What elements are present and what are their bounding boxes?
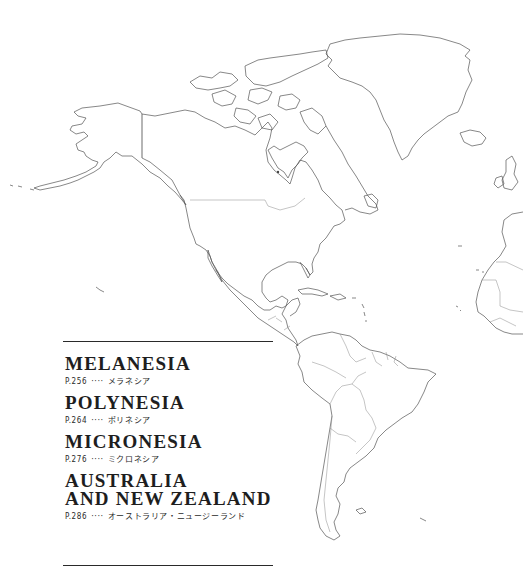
arctic-islands — [190, 50, 328, 134]
newfoundland-outline — [364, 194, 378, 208]
page-number: P.256 — [65, 377, 87, 386]
japanese-name: オーストラリア・ニュージーランド — [108, 512, 246, 521]
bottom-divider — [63, 565, 273, 566]
leader-dots: ···· — [91, 512, 104, 521]
table-of-contents: MELANESIA P.256····メラネシア POLYNESIA P.264… — [65, 355, 272, 529]
south-america-borders — [312, 334, 398, 454]
toc-entry-polynesia[interactable]: POLYNESIA P.264····ポリネシア — [65, 394, 272, 427]
leader-dots: ···· — [91, 377, 104, 386]
baja-california-outline — [208, 250, 222, 282]
atlantic-islands — [456, 246, 484, 311]
south-georgia — [420, 518, 426, 521]
south-america-outline — [296, 332, 436, 540]
iceland-outline — [460, 130, 486, 146]
toc-title: MICRONESIA — [65, 433, 272, 451]
toc-subline: P.286····オーストラリア・ニュージーランド — [65, 511, 272, 523]
alaska-outline — [34, 103, 186, 205]
page-number: P.264 — [65, 416, 87, 425]
hispaniola-outline — [330, 294, 346, 300]
greenland-outline — [326, 34, 472, 160]
central-america-outline — [216, 270, 298, 346]
british-isles-outline — [494, 156, 518, 190]
labrador-coast — [326, 126, 378, 214]
toc-subline: P.256····メラネシア — [65, 376, 272, 388]
toc-subline: P.264····ポリネシア — [65, 415, 272, 427]
us-canada-border — [190, 198, 305, 210]
toc-entry-australia-new-zealand[interactable]: AUSTRALIA AND NEW ZEALAND P.286····オーストラ… — [65, 472, 272, 523]
toc-title-line2: AND NEW ZEALAND — [65, 490, 272, 508]
africa-borders — [482, 262, 523, 326]
hawaii-islands — [96, 287, 104, 292]
cuba-outline — [298, 288, 328, 296]
toc-subline: P.276····ミクロネシア — [65, 454, 272, 466]
page-number: P.276 — [65, 455, 87, 464]
leader-dots: ···· — [91, 416, 104, 425]
hudson-bay-outline — [268, 142, 308, 178]
north-america-outline — [142, 110, 345, 310]
japanese-name: メラネシア — [108, 377, 151, 386]
falkland-islands — [356, 508, 366, 514]
top-divider — [63, 341, 273, 342]
toc-entry-melanesia[interactable]: MELANESIA P.256····メラネシア — [65, 355, 272, 388]
japanese-name: ミクロネシア — [108, 455, 160, 464]
japanese-name: ポリネシア — [108, 416, 151, 425]
lesser-antilles — [352, 298, 366, 322]
map-speck — [277, 171, 279, 173]
aleutian-islands — [10, 185, 34, 190]
toc-title: POLYNESIA — [65, 394, 272, 412]
page-number: P.286 — [65, 512, 87, 521]
chile-argentina-border — [324, 416, 332, 532]
iberia-west-africa-outline — [476, 212, 523, 334]
toc-entry-micronesia[interactable]: MICRONESIA P.276····ミクロネシア — [65, 433, 272, 466]
leader-dots: ···· — [91, 455, 104, 464]
florida-outline — [300, 262, 310, 278]
toc-title: MELANESIA — [65, 355, 272, 373]
